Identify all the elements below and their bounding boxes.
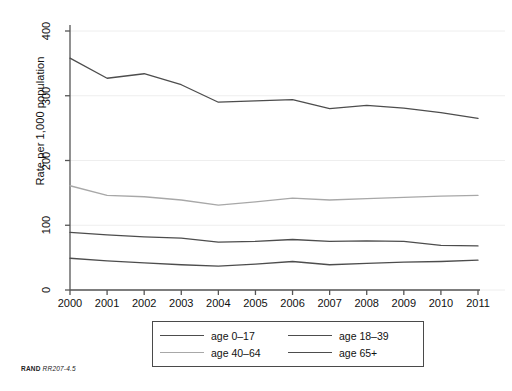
legend-item-age-40-64[interactable]: age 40–64 — [160, 347, 288, 359]
legend-label: age 18–39 — [339, 330, 389, 342]
x-tick-label: 2006 — [273, 297, 313, 309]
legend-swatch-icon — [160, 335, 204, 336]
y-tick-label: 400 — [39, 14, 53, 48]
chart-legend: age 0–17 age 18–39 age 40–64 age 65+ — [152, 321, 424, 367]
x-tick-label: 2010 — [421, 297, 461, 309]
legend-item-age-18-39[interactable]: age 18–39 — [288, 330, 416, 342]
legend-row: age 40–64 age 65+ — [160, 344, 416, 361]
legend-row: age 0–17 age 18–39 — [160, 327, 416, 344]
legend-item-age-65-plus[interactable]: age 65+ — [288, 347, 416, 359]
legend-label: age 65+ — [339, 347, 377, 359]
x-tick-label: 2011 — [458, 297, 498, 309]
series-line-age-18-39 — [70, 258, 478, 266]
line-chart-svg — [0, 0, 512, 310]
x-tick-label: 2001 — [87, 297, 127, 309]
x-tick-label: 2000 — [50, 297, 90, 309]
legend-label: age 0–17 — [211, 330, 255, 342]
chart-plot-area: Rate per 1,000 population 0100200300400 … — [0, 0, 512, 310]
series-line-age-0-17 — [70, 232, 478, 246]
series-line-age-40-64 — [70, 186, 478, 205]
x-tick-label: 2002 — [124, 297, 164, 309]
x-tick-label: 2005 — [235, 297, 275, 309]
x-tick-label: 2009 — [384, 297, 424, 309]
x-tick-label: 2003 — [161, 297, 201, 309]
legend-swatch-icon — [288, 335, 332, 336]
y-tick-label: 100 — [39, 208, 53, 242]
source-caption: RAND RR207-4.5 — [21, 365, 76, 372]
figure: Rate per 1,000 population 0100200300400 … — [0, 0, 512, 391]
y-tick-label: 200 — [39, 144, 53, 178]
y-tick-label: 300 — [39, 79, 53, 113]
x-tick-label: 2008 — [347, 297, 387, 309]
legend-swatch-icon — [160, 352, 204, 353]
series-line-age-65 — [70, 58, 478, 118]
report-id: RR207-4.5 — [43, 365, 76, 372]
x-tick-label: 2007 — [310, 297, 350, 309]
legend-label: age 40–64 — [211, 347, 261, 359]
rand-wordmark: RAND — [21, 365, 41, 372]
legend-item-age-0-17[interactable]: age 0–17 — [160, 330, 288, 342]
x-tick-label: 2004 — [198, 297, 238, 309]
legend-swatch-icon — [288, 352, 332, 353]
